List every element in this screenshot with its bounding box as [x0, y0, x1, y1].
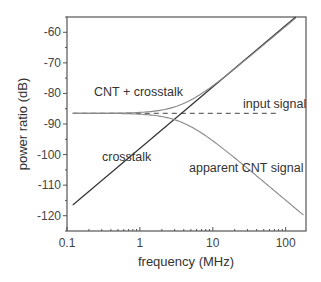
axis-ticks: -60-70-80-90-100-110-1200.1110100 — [37, 17, 296, 250]
x-tick-label: 10 — [206, 236, 220, 250]
annotation-crosstalk: crosstalk — [102, 150, 152, 164]
y-tick-label: -100 — [37, 148, 61, 162]
chart: -60-70-80-90-100-110-1200.1110100 CNT + … — [0, 0, 321, 282]
y-tick-label: -60 — [44, 25, 62, 39]
y-tick-label: -80 — [44, 86, 62, 100]
data-series — [73, 17, 304, 215]
annotation-cnt-plus-crosstalk: CNT + crosstalk — [94, 85, 184, 99]
annotation-apparent-cnt-signal: apparent CNT signal — [189, 161, 303, 175]
annotation-input-signal: input signal — [243, 97, 306, 111]
x-tick-label: 100 — [276, 236, 296, 250]
x-axis-title: frequency (MHz) — [138, 254, 234, 269]
x-tick-label: 0.1 — [59, 236, 76, 250]
x-tick-label: 1 — [137, 236, 144, 250]
y-axis-title: power ratio (dB) — [15, 78, 30, 170]
y-tick-label: -120 — [37, 209, 61, 223]
y-tick-label: -110 — [38, 178, 61, 192]
crosstalk-line — [73, 17, 296, 205]
y-tick-label: -90 — [44, 117, 62, 131]
y-tick-label: -70 — [44, 56, 62, 70]
